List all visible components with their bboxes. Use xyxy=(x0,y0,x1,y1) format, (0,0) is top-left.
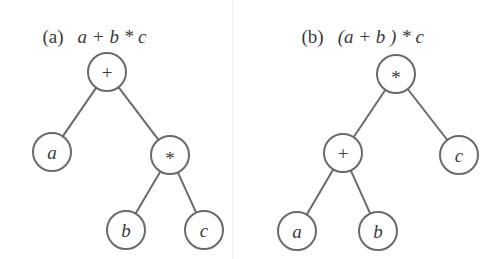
node-label: c xyxy=(455,145,464,166)
node-label: b xyxy=(373,221,383,242)
tree-edge xyxy=(408,89,448,140)
tree-node-b-a: a xyxy=(278,212,316,250)
tree-edge xyxy=(307,169,334,214)
tree-node-b-plus: + xyxy=(324,134,362,172)
tree-edge xyxy=(118,87,158,140)
expression-trees: +a*bc*+cab xyxy=(0,0,502,259)
node-label: + xyxy=(338,143,349,164)
node-label: c xyxy=(200,220,209,241)
node-label: + xyxy=(102,62,113,83)
node-label: a xyxy=(47,142,57,163)
node-label: * xyxy=(391,67,401,88)
tree-edge xyxy=(136,171,161,213)
tree-node-a-a: a xyxy=(33,133,71,171)
tree-edge xyxy=(351,170,370,213)
tree-node-b-b: b xyxy=(359,212,397,250)
tree-node-b-c: c xyxy=(440,136,478,174)
tree-edge xyxy=(63,88,96,137)
tree-edge xyxy=(354,90,386,137)
tree-node-a-c: c xyxy=(185,211,223,249)
tree-node-b-mul: * xyxy=(377,55,415,93)
tree-edge xyxy=(178,172,196,212)
tree-node-a-b: b xyxy=(107,211,145,249)
node-label: a xyxy=(292,221,302,242)
node-label: * xyxy=(165,148,175,169)
tree-node-a-plus: + xyxy=(88,53,126,91)
tree-edges xyxy=(63,87,448,214)
tree-node-a-mul: * xyxy=(151,136,189,174)
tree-nodes: +a*bc*+cab xyxy=(33,53,478,250)
node-label: b xyxy=(121,220,131,241)
